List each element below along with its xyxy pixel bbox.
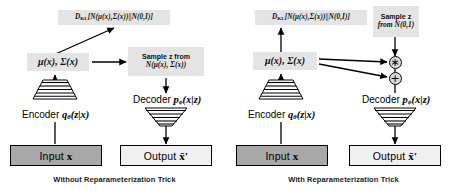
decoder-function: pϕ(x|z): [403, 94, 431, 105]
multiply-operator-icon: ∗: [389, 56, 402, 69]
encoder-label-text: Encoder: [248, 109, 285, 120]
decoder-trapezoid-right: [374, 108, 416, 126]
kl-subscript: KL: [277, 16, 284, 21]
input-label: Input: [265, 150, 289, 162]
input-box: Input x: [10, 145, 102, 166]
decoder-trapezoid-left: [145, 108, 187, 126]
kl-body: [N(μ(x),Σ(x))||N(0,I)]: [88, 13, 153, 21]
kl-divergence-box: DKL[N(μ(x),Σ(x))||N(0,I)]: [58, 10, 170, 25]
encoder-label-text: Encoder: [22, 109, 59, 120]
kl-subscript: KL: [80, 16, 87, 21]
encoder-trapezoid-right: [259, 80, 303, 99]
panel-without-reparameterization-trick: DKL[N(μ(x),Σ(x))||N(0,I)] μ(x), Σ(x) Sam…: [0, 0, 229, 191]
panel-caption-left: Without Reparameterization Trick: [0, 175, 229, 184]
panel-caption-right: With Reparameterization Trick: [229, 175, 458, 184]
decoder-label: Decoder pϕ(x|z): [133, 94, 201, 105]
input-variable: x: [293, 150, 299, 162]
input-box: Input x: [236, 145, 328, 166]
input-label: Input: [39, 150, 63, 162]
latent-parameters-box: μ(x), Σ(x): [27, 53, 89, 71]
sample-z-box: Sample z from N(μ(x), Σ(x)): [128, 47, 204, 76]
panel-with-reparameterization-trick: DKL[N(μ(x),Σ(x))||N(0,I)] Sample z from …: [229, 0, 458, 191]
sample-noise-line2: from N(0,1): [378, 21, 415, 30]
sample-z-line2: N(μ(x), Σ(x)): [146, 61, 186, 70]
encoder-trapezoid-left: [33, 80, 77, 99]
input-variable: x: [67, 150, 73, 162]
decoder-label-text: Decoder: [362, 94, 400, 105]
encoder-label: Encoder qθ(z|x): [22, 109, 89, 120]
add-operator-icon: +: [389, 72, 402, 85]
sample-noise-box: Sample z from N(0,1): [373, 6, 419, 37]
decoder-label: Decoder pϕ(x|z): [362, 94, 430, 105]
vae-reparameterization-figure: DKL[N(μ(x),Σ(x))||N(0,I)] μ(x), Σ(x) Sam…: [0, 0, 458, 191]
latent-parameters-box: μ(x), Σ(x): [253, 52, 317, 70]
output-variable: x̄′: [179, 150, 188, 162]
encoder-function: qθ(z|x): [62, 109, 89, 120]
encoder-function: qθ(z|x): [288, 109, 315, 120]
decoder-label-text: Decoder: [133, 94, 171, 105]
output-box: Output x̄′: [120, 145, 212, 166]
encoder-label: Encoder qθ(z|x): [248, 109, 315, 120]
decoder-function: pϕ(x|z): [174, 94, 202, 105]
output-label: Output: [373, 150, 406, 162]
output-variable: x̄′: [408, 150, 417, 162]
kl-body: [N(μ(x),Σ(x))||N(0,I)]: [285, 13, 350, 21]
output-box: Output x̄′: [349, 145, 441, 166]
output-label: Output: [144, 150, 177, 162]
kl-divergence-box: DKL[N(μ(x),Σ(x))||N(0,I)]: [255, 10, 367, 25]
